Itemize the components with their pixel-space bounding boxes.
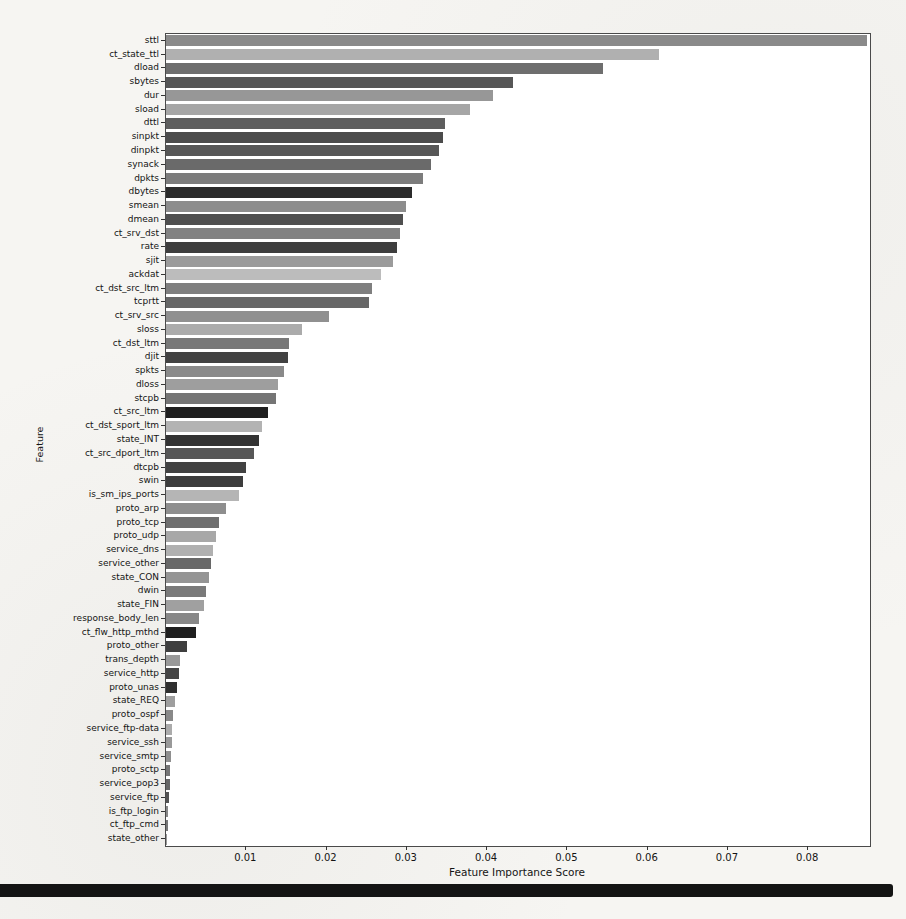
x-tick-mark <box>807 846 808 850</box>
y-tick-mark <box>161 838 165 839</box>
y-tick-label-sttl: sttl <box>145 35 159 44</box>
bar-proto_udp <box>166 531 216 542</box>
y-tick-label-dpkts: dpkts <box>134 173 159 182</box>
bar-dwin <box>166 586 206 597</box>
x-tick-mark <box>566 846 567 850</box>
y-tick-mark <box>161 549 165 550</box>
y-tick-mark <box>161 645 165 646</box>
bar-state_other <box>166 834 167 845</box>
x-tick-mark <box>326 846 327 850</box>
y-tick-label-service_other: service_other <box>98 558 159 567</box>
y-tick-mark <box>161 81 165 82</box>
y-tick-mark <box>161 522 165 523</box>
y-tick-label-tcprtt: tcprtt <box>134 297 159 306</box>
bar-service_pop3 <box>166 779 170 790</box>
y-tick-mark <box>161 714 165 715</box>
y-tick-mark <box>161 315 165 316</box>
y-tick-mark <box>161 274 165 275</box>
y-tick-label-service_pop3: service_pop3 <box>100 779 159 788</box>
y-tick-label-service_smtp: service_smtp <box>100 751 159 760</box>
y-tick-label-ackdat: ackdat <box>129 269 159 278</box>
y-tick-label-dbytes: dbytes <box>128 187 159 196</box>
y-tick-mark <box>161 301 165 302</box>
bar-dinpkt <box>166 145 439 156</box>
bar-service_other <box>166 558 211 569</box>
bar-dload <box>166 63 603 74</box>
y-tick-label-state_FIN: state_FIN <box>117 600 159 609</box>
bar-sload <box>166 104 470 115</box>
bar-dttl <box>166 118 445 129</box>
y-tick-label-service_http: service_http <box>104 668 159 677</box>
y-tick-mark <box>161 122 165 123</box>
bar-service_ssh <box>166 737 172 748</box>
bar-dloss <box>166 379 278 390</box>
bar-stcpb <box>166 393 276 404</box>
y-tick-mark <box>161 288 165 289</box>
y-tick-mark <box>161 632 165 633</box>
y-tick-label-djit: djit <box>145 352 159 361</box>
y-tick-mark <box>161 164 165 165</box>
y-tick-label-ct_flw_http_mthd: ct_flw_http_mthd <box>82 627 159 636</box>
y-tick-label-service_ftp: service_ftp <box>110 792 159 801</box>
y-tick-mark <box>161 246 165 247</box>
y-tick-label-state_REQ: state_REQ <box>113 696 159 705</box>
y-tick-label-trans_depth: trans_depth <box>105 655 159 664</box>
y-tick-label-ct_dst_sport_ltm: ct_dst_sport_ltm <box>85 421 159 430</box>
bar-service_ftp <box>166 792 169 803</box>
y-tick-label-response_body_len: response_body_len <box>73 613 159 622</box>
bar-ct_dst_ltm <box>166 338 289 349</box>
bar-ct_state_ttl <box>166 49 659 60</box>
bar-ct_src_dport_ltm <box>166 448 254 459</box>
y-tick-label-sload: sload <box>135 104 159 113</box>
bar-ct_srv_dst <box>166 228 400 239</box>
bar-dtcpb <box>166 462 246 473</box>
y-tick-label-stcpb: stcpb <box>134 393 159 402</box>
y-tick-mark <box>161 535 165 536</box>
bar-synack <box>166 159 431 170</box>
y-tick-label-service_ftp-data: service_ftp-data <box>86 724 159 733</box>
bar-service_ftp-data <box>166 724 172 735</box>
x-tick-label-0.05: 0.05 <box>555 852 577 863</box>
y-tick-label-dwin: dwin <box>138 586 159 595</box>
y-tick-label-dload: dload <box>134 63 159 72</box>
y-tick-mark <box>161 260 165 261</box>
bar-state_INT <box>166 435 259 446</box>
bar-ct_srv_src <box>166 311 329 322</box>
bar-sttl <box>166 35 867 46</box>
x-tick-mark <box>727 846 728 850</box>
bar-proto_arp <box>166 503 226 514</box>
bar-state_REQ <box>166 696 175 707</box>
y-tick-label-ct_src_dport_ltm: ct_src_dport_ltm <box>85 448 159 457</box>
bar-ct_src_ltm <box>166 407 268 418</box>
bar-rate <box>166 242 397 253</box>
bar-djit <box>166 352 288 363</box>
y-tick-label-ct_srv_src: ct_srv_src <box>115 311 159 320</box>
page-divider-bar <box>0 884 893 897</box>
y-tick-mark <box>161 329 165 330</box>
x-tick-label-0.03: 0.03 <box>395 852 417 863</box>
y-tick-mark <box>161 439 165 440</box>
y-tick-label-proto_unas: proto_unas <box>109 682 159 691</box>
y-tick-mark <box>161 687 165 688</box>
bar-service_smtp <box>166 751 171 762</box>
y-tick-label-ct_ftp_cmd: ct_ftp_cmd <box>110 820 159 829</box>
y-tick-mark <box>161 384 165 385</box>
bar-sjit <box>166 256 393 267</box>
y-tick-label-ct_src_ltm: ct_src_ltm <box>114 407 159 416</box>
bar-ct_flw_http_mthd <box>166 627 196 638</box>
y-tick-mark <box>161 67 165 68</box>
y-tick-mark <box>161 756 165 757</box>
bar-trans_depth <box>166 655 180 666</box>
bar-spkts <box>166 366 284 377</box>
y-tick-label-proto_sctp: proto_sctp <box>112 765 159 774</box>
y-axis-title: Feature <box>34 427 45 463</box>
y-tick-mark <box>161 109 165 110</box>
bars-container <box>166 34 870 846</box>
y-tick-mark <box>161 467 165 468</box>
bar-ct_dst_sport_ltm <box>166 421 262 432</box>
x-tick-mark <box>486 846 487 850</box>
y-tick-mark <box>161 54 165 55</box>
y-tick-label-ct_dst_src_ltm: ct_dst_src_ltm <box>95 283 159 292</box>
bar-dbytes <box>166 187 412 198</box>
x-tick-label-0.08: 0.08 <box>796 852 818 863</box>
